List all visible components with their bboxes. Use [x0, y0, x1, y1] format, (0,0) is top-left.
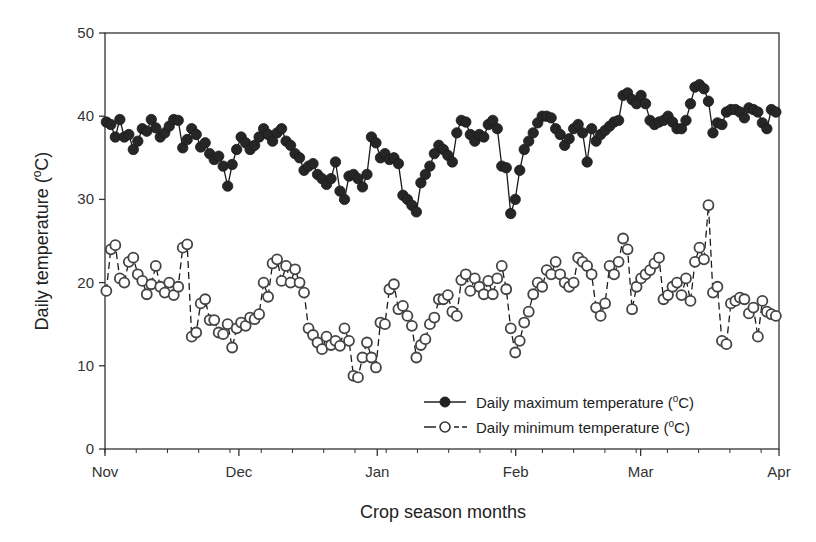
data-point: [339, 194, 349, 204]
x-tick-label: Feb: [503, 463, 529, 480]
data-point: [447, 157, 457, 167]
plot-border: [105, 33, 779, 449]
data-point: [600, 298, 610, 308]
data-point: [564, 133, 574, 143]
data-point: [259, 278, 269, 288]
data-point: [294, 153, 304, 163]
data-point: [551, 257, 561, 267]
data-point: [272, 254, 282, 264]
legend-item-minimum: Daily minimum temperature (oC): [424, 418, 690, 436]
data-point: [582, 157, 592, 167]
data-point: [596, 311, 606, 321]
svg-text:Daily minimum temperature (oC): Daily minimum temperature (oC): [476, 418, 690, 436]
data-point: [344, 336, 354, 346]
data-point: [676, 290, 686, 300]
data-point: [222, 181, 232, 191]
data-point: [295, 278, 305, 288]
data-point: [362, 169, 372, 179]
data-point: [515, 165, 525, 175]
data-point: [371, 138, 381, 148]
data-point: [614, 257, 624, 267]
data-point: [200, 138, 210, 148]
y-tick-label: 50: [77, 24, 94, 41]
data-point: [524, 307, 534, 317]
data-point: [200, 294, 210, 304]
legend: Daily maximum temperature (oC) Daily min…: [424, 393, 694, 436]
y-tick-label: 40: [77, 107, 94, 124]
data-point: [411, 352, 421, 362]
data-point: [708, 128, 718, 138]
data-point: [703, 96, 713, 106]
data-point: [425, 161, 435, 171]
y-tick-label: 30: [77, 190, 94, 207]
data-point: [492, 273, 502, 283]
data-point: [492, 123, 502, 133]
data-point: [173, 115, 183, 125]
data-point: [371, 362, 381, 372]
data-point: [128, 253, 138, 263]
data-point: [640, 99, 650, 109]
data-point: [510, 194, 520, 204]
data-point: [254, 309, 264, 319]
x-tick-label: Apr: [767, 463, 790, 480]
data-point: [407, 321, 417, 331]
data-point: [263, 292, 273, 302]
data-point: [739, 113, 749, 123]
data-point: [712, 282, 722, 292]
data-point: [389, 279, 399, 289]
y-tick-label: 20: [77, 274, 94, 291]
data-point: [357, 182, 367, 192]
y-axis: 01020304050: [77, 24, 105, 457]
data-point: [119, 278, 129, 288]
data-point: [654, 253, 664, 263]
data-point: [762, 123, 772, 133]
data-point: [420, 334, 430, 344]
data-point: [151, 261, 161, 271]
y-tick-label: 0: [86, 440, 94, 457]
data-point: [623, 244, 633, 254]
x-axis-title: Crop season months: [360, 502, 526, 522]
y-axis-title: Daily temperature (oC): [30, 152, 52, 331]
data-point: [452, 128, 462, 138]
data-point: [587, 269, 597, 279]
data-point: [326, 173, 336, 183]
data-point: [173, 282, 183, 292]
data-point: [569, 278, 579, 288]
data-point: [191, 129, 201, 139]
data-point: [753, 107, 763, 117]
data-point: [393, 158, 403, 168]
data-point: [366, 352, 376, 362]
data-point: [771, 311, 781, 321]
data-point: [699, 254, 709, 264]
legend-unit: C): [674, 419, 690, 436]
data-point: [330, 157, 340, 167]
data-point: [402, 311, 412, 321]
x-tick-label: Nov: [92, 463, 119, 480]
data-point: [721, 339, 731, 349]
plot-area: [105, 33, 779, 449]
data-point: [380, 319, 390, 329]
data-point: [290, 264, 300, 274]
data-point: [362, 338, 372, 348]
data-point: [681, 115, 691, 125]
svg-text:Daily maximum temperature (oC): Daily maximum temperature (oC): [476, 393, 694, 411]
data-point: [218, 329, 228, 339]
temperature-chart: 01020304050 NovDecJanFebMarApr Crop seas…: [0, 0, 816, 542]
data-point: [739, 294, 749, 304]
data-point: [479, 132, 489, 142]
data-point: [110, 240, 120, 250]
data-point: [276, 123, 286, 133]
legend-unit: C): [678, 394, 694, 411]
data-point: [443, 290, 453, 300]
series-daily-minimum: [101, 200, 781, 382]
y-axis-title-unit: C): [32, 152, 52, 171]
data-point: [627, 304, 637, 314]
data-point: [685, 296, 695, 306]
data-point: [308, 158, 318, 168]
data-point: [528, 128, 538, 138]
data-point: [182, 239, 192, 249]
open-circle-marker-icon: [440, 422, 450, 432]
legend-item-maximum: Daily maximum temperature (oC): [424, 393, 694, 411]
x-tick-label: Dec: [226, 463, 253, 480]
data-point: [510, 347, 520, 357]
